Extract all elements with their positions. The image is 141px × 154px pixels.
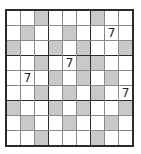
grid-cell-r4c3[interactable] xyxy=(35,55,48,70)
grid-cell-r1c5[interactable] xyxy=(63,11,76,25)
grid-cell-r3c1[interactable] xyxy=(7,41,20,55)
grid-cell-r2c3[interactable] xyxy=(35,26,48,40)
grid-cell-r2c8[interactable]: 7 xyxy=(105,26,118,40)
grid-cell-r9c5[interactable] xyxy=(63,131,76,145)
grid-cell-r2c2[interactable] xyxy=(21,26,34,40)
sudoku-grid: 7777 xyxy=(5,9,134,147)
grid-cell-r4c6[interactable] xyxy=(77,55,90,70)
grid-cell-r7c4[interactable] xyxy=(48,100,62,115)
grid-cell-r1c9[interactable] xyxy=(119,11,132,25)
grid-cell-r3c3[interactable] xyxy=(35,41,48,55)
grid-cell-r3c8[interactable] xyxy=(105,41,118,55)
grid-cell-r8c1[interactable] xyxy=(7,116,20,130)
grid-cell-r5c4[interactable] xyxy=(48,71,62,85)
grid-cell-r9c2[interactable] xyxy=(21,131,34,145)
grid-cell-r1c8[interactable] xyxy=(105,11,118,25)
grid-cell-r1c6[interactable] xyxy=(77,11,90,25)
puzzle-area: 7777 xyxy=(5,9,134,147)
grid-cell-r9c4[interactable] xyxy=(48,131,62,145)
grid-cell-r7c3[interactable] xyxy=(35,100,48,115)
grid-cell-r9c1[interactable] xyxy=(7,131,20,145)
grid-cell-r5c1[interactable] xyxy=(7,71,20,85)
grid-cell-r1c7[interactable] xyxy=(90,11,104,25)
grid-cell-r8c3[interactable] xyxy=(35,116,48,130)
grid-cell-r5c2[interactable]: 7 xyxy=(21,71,34,85)
grid-cell-r7c7[interactable] xyxy=(90,100,104,115)
grid-cell-r4c7[interactable] xyxy=(90,55,104,70)
grid-cell-r7c1[interactable] xyxy=(7,100,20,115)
grid-cell-r4c5[interactable]: 7 xyxy=(63,55,76,70)
grid-cell-r7c2[interactable] xyxy=(21,100,34,115)
grid-cell-r2c5[interactable] xyxy=(63,26,76,40)
grid-cell-r9c6[interactable] xyxy=(77,131,90,145)
grid-cell-r7c9[interactable] xyxy=(119,100,132,115)
grid-cell-r9c9[interactable] xyxy=(119,131,132,145)
grid-cell-r4c2[interactable] xyxy=(21,55,34,70)
grid-cell-r8c8[interactable] xyxy=(105,116,118,130)
grid-cell-r6c7[interactable] xyxy=(90,86,104,100)
grid-cell-r2c6[interactable] xyxy=(77,26,90,40)
grid-cell-r6c2[interactable] xyxy=(21,86,34,100)
grid-cell-r6c3[interactable] xyxy=(35,86,48,100)
grid-cell-r4c9[interactable] xyxy=(119,55,132,70)
grid-cell-r5c8[interactable] xyxy=(105,71,118,85)
grid-cell-r1c3[interactable] xyxy=(35,11,48,25)
grid-cell-r5c5[interactable] xyxy=(63,71,76,85)
grid-cell-r1c4[interactable] xyxy=(48,11,62,25)
grid-cell-r9c8[interactable] xyxy=(105,131,118,145)
grid-cell-r6c4[interactable] xyxy=(48,86,62,100)
grid-cell-r2c7[interactable] xyxy=(90,26,104,40)
grid-cell-r3c7[interactable] xyxy=(90,41,104,55)
grid-cell-r9c7[interactable] xyxy=(90,131,104,145)
grid-cell-r4c8[interactable] xyxy=(105,55,118,70)
grid-cell-r3c2[interactable] xyxy=(21,41,34,55)
grid-cell-r2c1[interactable] xyxy=(7,26,20,40)
grid-cell-r7c5[interactable] xyxy=(63,100,76,115)
grid-cell-r8c6[interactable] xyxy=(77,116,90,130)
grid-cell-r5c6[interactable] xyxy=(77,71,90,85)
grid-cell-r9c3[interactable] xyxy=(35,131,48,145)
grid-cell-r6c6[interactable] xyxy=(77,86,90,100)
grid-cell-r6c1[interactable] xyxy=(7,86,20,100)
grid-cell-r2c9[interactable] xyxy=(119,26,132,40)
grid-cell-r7c6[interactable] xyxy=(77,100,90,115)
grid-cell-r1c2[interactable] xyxy=(21,11,34,25)
grid-cell-r4c1[interactable] xyxy=(7,55,20,70)
grid-cell-r5c9[interactable] xyxy=(119,71,132,85)
grid-cell-r8c2[interactable] xyxy=(21,116,34,130)
grid-cell-r6c5[interactable] xyxy=(63,86,76,100)
grid-cell-r5c7[interactable] xyxy=(90,71,104,85)
grid-cell-r8c9[interactable] xyxy=(119,116,132,130)
grid-cell-r3c4[interactable] xyxy=(48,41,62,55)
grid-cell-r6c9[interactable]: 7 xyxy=(119,86,132,100)
grid-cell-r3c6[interactable] xyxy=(77,41,90,55)
grid-cell-r2c4[interactable] xyxy=(48,26,62,40)
grid-cell-r1c1[interactable] xyxy=(7,11,20,25)
grid-cell-r6c8[interactable] xyxy=(105,86,118,100)
grid-cell-r8c7[interactable] xyxy=(90,116,104,130)
grid-cell-r8c4[interactable] xyxy=(48,116,62,130)
grid-cell-r3c5[interactable] xyxy=(63,41,76,55)
grid-cell-r3c9[interactable] xyxy=(119,41,132,55)
grid-cell-r8c5[interactable] xyxy=(63,116,76,130)
grid-cell-r7c8[interactable] xyxy=(105,100,118,115)
grid-cell-r4c4[interactable] xyxy=(48,55,62,70)
grid-cell-r5c3[interactable] xyxy=(35,71,48,85)
